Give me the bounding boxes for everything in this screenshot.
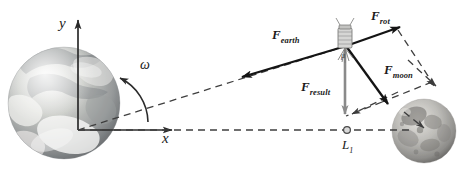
x-axis-label: x (162, 131, 169, 146)
f-moon-sub: moon (393, 70, 413, 80)
f-earth-label: Fearth (272, 28, 300, 44)
f-rot-label: Frot (371, 9, 390, 25)
parallelogram-edge-bottom-left (346, 102, 382, 116)
guide-lines (78, 30, 432, 131)
earth-body (8, 47, 120, 159)
physics-diagram: y x ω μ Fearth Frot Fmoon Fresult L1 (0, 0, 462, 195)
f-rot-base: F (371, 8, 380, 23)
lagrange-point-marker (344, 127, 351, 134)
f-result-label: Fresult (301, 80, 330, 96)
f-result-sub: result (310, 87, 330, 97)
spacecraft-mu-label: μ (341, 52, 345, 60)
f-result-base: F (301, 79, 310, 94)
lagrange-point-label: L1 (342, 138, 353, 155)
vector-f-earth (242, 46, 346, 77)
lagrange-sub: 1 (349, 146, 353, 155)
f-moon-label: Fmoon (384, 63, 413, 79)
f-earth-base: F (272, 27, 281, 42)
omega-label: ω (140, 58, 150, 72)
diagram-canvas (0, 0, 462, 195)
y-axis-label: y (59, 16, 66, 31)
f-rot-sub: rot (380, 16, 390, 26)
vector-f-rot (346, 27, 400, 46)
vector-f-moon (346, 46, 388, 104)
f-moon-base: F (384, 62, 393, 77)
f-earth-sub: earth (281, 35, 300, 45)
